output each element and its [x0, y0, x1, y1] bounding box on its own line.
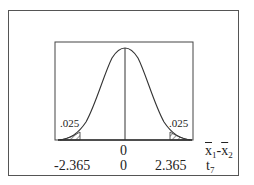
- t-left-critical-tick: -2.365: [54, 159, 90, 173]
- t-right-critical-tick: 2.365: [155, 159, 187, 173]
- left-tail-area-label: .025: [60, 116, 79, 130]
- t-axis-label: t7: [206, 159, 214, 177]
- xbar-zero-tick: 0: [120, 144, 127, 158]
- t-zero-tick: 0: [120, 159, 127, 173]
- right-tail-area-label: .025: [169, 116, 188, 130]
